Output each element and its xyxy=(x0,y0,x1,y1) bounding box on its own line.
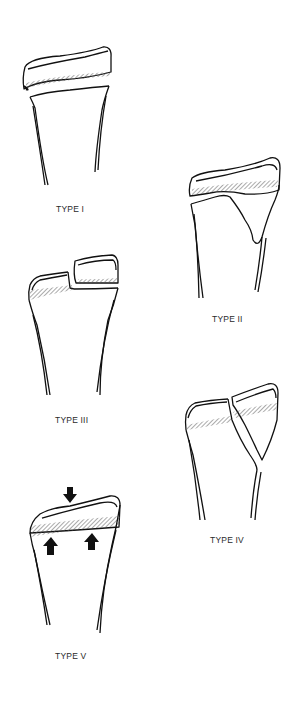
fracture-drawings xyxy=(0,0,292,701)
type-1-label: TYPE I xyxy=(56,204,84,214)
type-2-drawing xyxy=(189,158,280,298)
compression-arrow-up-icon xyxy=(84,533,99,550)
type-4-label: TYPE IV xyxy=(210,535,244,545)
type-2-label: TYPE II xyxy=(212,314,243,324)
salter-harris-figure: TYPE I TYPE II TYPE III TYPE IV TYPE V xyxy=(0,0,292,701)
type-1-drawing xyxy=(23,47,111,185)
type-5-label: TYPE V xyxy=(55,651,86,661)
compression-arrow-up-icon xyxy=(43,537,58,555)
type-3-drawing xyxy=(29,255,118,395)
compression-arrow-down-icon xyxy=(63,487,77,503)
type-4-drawing xyxy=(186,384,279,520)
type-5-drawing xyxy=(30,487,120,633)
type-3-label: TYPE III xyxy=(55,415,88,425)
